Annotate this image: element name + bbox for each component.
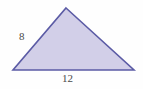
triangle-shape [13,8,134,70]
side-label-base: 12 [62,73,73,84]
side-label-left: 8 [19,31,25,42]
triangle-figure: 8 12 [0,0,143,89]
